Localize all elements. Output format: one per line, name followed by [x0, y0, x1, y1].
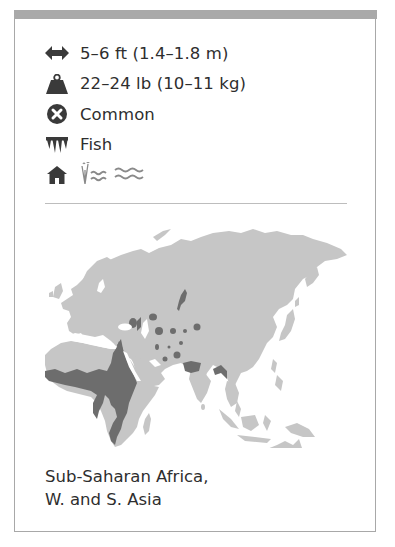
fact-habitat — [45, 160, 246, 191]
wetland-reeds-icon — [80, 162, 108, 188]
habitat-house-icon — [45, 165, 69, 185]
weight-value: 22–24 lb (10–11 kg) — [80, 74, 246, 93]
facts-list: 5–6 ft (1.4–1.8 m) 22–24 lb (10–11 kg) C… — [45, 38, 246, 191]
fact-length: 5–6 ft (1.4–1.8 m) — [45, 38, 246, 69]
habitat-icons — [80, 162, 144, 188]
status-common-icon — [45, 104, 69, 124]
fact-diet: Fish — [45, 130, 246, 161]
range-line-2: W. and S. Asia — [45, 488, 208, 511]
length-arrows-icon — [45, 43, 69, 63]
water-waves-icon — [114, 165, 144, 185]
diet-value: Fish — [80, 135, 112, 154]
length-value: 5–6 ft (1.4–1.8 m) — [80, 44, 228, 63]
species-fact-card: 5–6 ft (1.4–1.8 m) 22–24 lb (10–11 kg) C… — [14, 10, 376, 532]
range-map — [41, 223, 353, 448]
weight-icon — [45, 74, 69, 94]
fact-status: Common — [45, 99, 246, 130]
card-top-bar — [14, 10, 377, 19]
range-description: Sub-Saharan Africa, W. and S. Asia — [45, 465, 208, 511]
range-line-1: Sub-Saharan Africa, — [45, 465, 208, 488]
diet-teeth-icon — [45, 135, 69, 155]
status-value: Common — [80, 105, 155, 124]
fact-weight: 22–24 lb (10–11 kg) — [45, 69, 246, 100]
section-divider — [45, 203, 347, 204]
